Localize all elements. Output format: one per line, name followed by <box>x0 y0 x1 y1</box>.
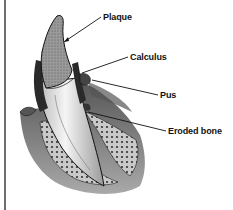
plaque-leader-line <box>64 17 101 42</box>
tooth-crown <box>41 15 74 88</box>
label-calculus: Calculus <box>130 52 167 62</box>
label-pus: Pus <box>160 90 176 100</box>
label-eroded-bone: Eroded bone <box>168 126 222 136</box>
calculus-leader-line <box>82 57 128 73</box>
tooth-illustration <box>0 0 233 210</box>
label-plaque: Plaque <box>103 12 132 22</box>
